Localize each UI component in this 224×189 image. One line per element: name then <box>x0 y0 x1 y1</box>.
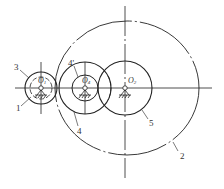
part-label-2: 2 <box>180 151 185 161</box>
leader-1 <box>21 97 31 106</box>
part-label-4: 4 <box>77 126 82 136</box>
leader-2 <box>173 142 178 151</box>
label-o4: O4 <box>82 76 91 85</box>
leader-4-prime <box>74 66 78 77</box>
leader-5 <box>142 110 148 119</box>
part-label-3: 3 <box>14 62 19 72</box>
leader-4 <box>74 112 78 126</box>
part-label-5: 5 <box>149 118 154 128</box>
label-o2: O2 <box>128 76 137 85</box>
part-label-4-prime: 4' <box>68 58 75 68</box>
gear-train-diagram: O1 O4 O2 3 1 4' 4 5 2 <box>0 0 224 189</box>
part-label-1: 1 <box>16 103 21 113</box>
leader-3 <box>20 70 29 78</box>
label-o1: O1 <box>38 76 46 85</box>
